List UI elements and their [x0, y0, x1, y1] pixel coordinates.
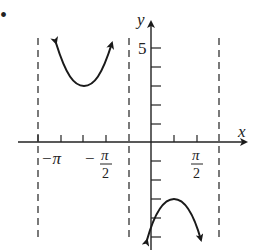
curve-upper-branch [56, 43, 112, 86]
graph-figure: • y x 5 −π − π 2 π 2 [0, 0, 253, 250]
y-tick-label-5: 5 [138, 39, 147, 58]
bullet-marker: • [0, 4, 7, 26]
graph-canvas: • y x 5 −π − π 2 π 2 [0, 0, 253, 250]
x-tick-label-pi-2-num: π [192, 147, 200, 163]
x-tick-label-neg-pi: −π [41, 149, 61, 168]
x-axis-label: x [237, 122, 246, 141]
x-tick-label-neg-pi-2-sign: − [85, 149, 95, 168]
curve-lower-branch [147, 199, 201, 240]
x-tick-label-neg-pi-2-num: π [101, 147, 109, 163]
y-axis-label: y [135, 10, 145, 29]
x-ticks [38, 135, 197, 142]
x-tick-label-pi-2-den: 2 [193, 166, 200, 181]
axes [18, 22, 246, 250]
x-tick-label-neg-pi-2-den: 2 [102, 166, 109, 181]
